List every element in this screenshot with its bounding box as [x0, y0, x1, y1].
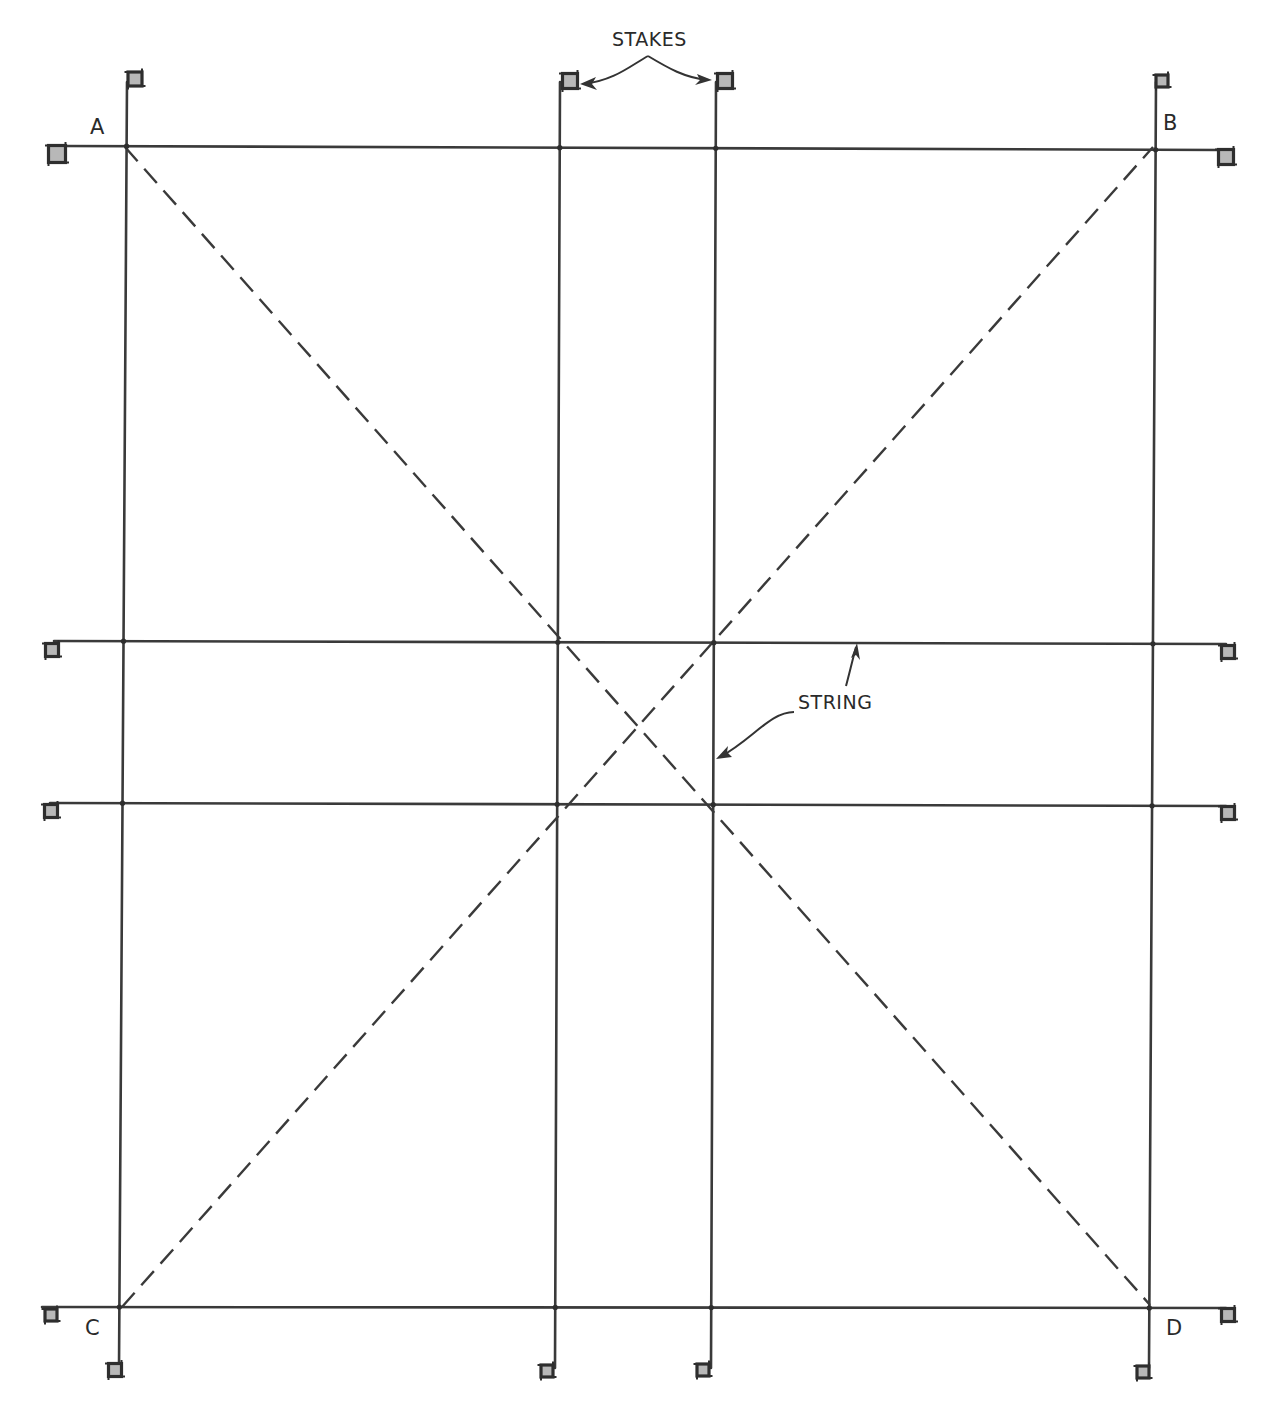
arrowhead-icon [580, 77, 597, 90]
string-intersection [553, 1305, 558, 1310]
string-intersection [1147, 1305, 1152, 1310]
string-intersection [1150, 641, 1155, 646]
string-upper-inner [54, 641, 1226, 644]
string-lower-inner [50, 803, 1226, 806]
string-intersection [711, 640, 716, 645]
arrowhead-icon [695, 74, 712, 85]
stake-upper-right-icon [1218, 642, 1238, 662]
stake-a-top-icon [125, 69, 146, 90]
stake-inner-right-top-icon [714, 70, 736, 92]
string-leader-bottom [720, 712, 794, 757]
corner-label-b: B [1163, 111, 1177, 135]
corner-label-d: D [1166, 1316, 1182, 1340]
stake-d-right-icon [1218, 1305, 1238, 1325]
stake-b-right-icon [1215, 146, 1237, 168]
stakes-label: STAKES [612, 28, 687, 50]
string-ab [62, 146, 1222, 150]
string-layout-diagram: STAKES STRING A B C D [0, 0, 1273, 1416]
stake-upper-left-icon [42, 640, 62, 660]
string-intersection [713, 146, 718, 151]
arrowhead-icon [716, 746, 732, 759]
diagonal-strings [122, 147, 1153, 1307]
string-intersection [555, 802, 560, 807]
string-intersection [1153, 147, 1158, 152]
string-left-inner [555, 82, 560, 1368]
stakes [41, 69, 1238, 1382]
string-intersection [121, 639, 126, 644]
string-bd [1149, 82, 1156, 1368]
stake-inner-right-bottom-icon [694, 1361, 713, 1380]
layout-strings [42, 82, 1226, 1368]
string-intersection [124, 144, 129, 149]
stake-a-left-icon [45, 142, 69, 166]
stake-inner-left-top-icon [559, 70, 581, 92]
stake-lower-right-icon [1218, 803, 1238, 823]
stake-d-bottom-icon [1134, 1363, 1153, 1382]
string-intersection [555, 640, 560, 645]
annotation-leaders [580, 56, 860, 759]
string-cd [42, 1307, 1226, 1308]
stake-lower-left-icon [41, 801, 61, 821]
labels: STAKES STRING A B C D [85, 28, 1182, 1340]
corner-label-c: C [85, 1316, 100, 1340]
string-intersection [117, 1304, 122, 1309]
string-intersection [1149, 803, 1154, 808]
stake-b-top-icon [1153, 72, 1172, 91]
string-intersection [709, 1305, 714, 1310]
stake-c-bottom-icon [105, 1360, 125, 1380]
string-label: STRING [798, 691, 872, 713]
string-intersection [120, 801, 125, 806]
corner-label-a: A [90, 115, 105, 139]
string-right-inner [711, 82, 716, 1368]
stake-inner-left-bottom-icon [538, 1362, 557, 1381]
string-ac [119, 82, 127, 1368]
string-intersection [557, 145, 562, 150]
stake-c-left-icon [42, 1306, 61, 1325]
string-intersection [711, 802, 716, 807]
